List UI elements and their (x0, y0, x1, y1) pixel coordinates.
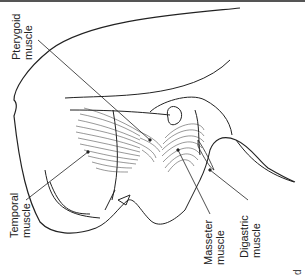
label-pterygoid-muscle: Pterygoid muscle (10, 14, 34, 60)
panel-letter: d (292, 269, 303, 275)
label-line: muscle (250, 215, 262, 258)
label-line: muscle (20, 193, 32, 238)
label-line: Masseter (202, 220, 214, 265)
label-line: Pterygoid (10, 14, 22, 60)
label-digastric-muscle: Digastric muscle (238, 215, 262, 258)
label-line: muscle (22, 14, 34, 60)
label-line: Temporal (8, 193, 20, 238)
label-masseter-muscle: Masseter muscle (202, 220, 226, 265)
label-temporal-muscle: Temporal muscle (8, 193, 32, 238)
label-line: muscle (214, 220, 226, 265)
label-line: Digastric (238, 215, 250, 258)
